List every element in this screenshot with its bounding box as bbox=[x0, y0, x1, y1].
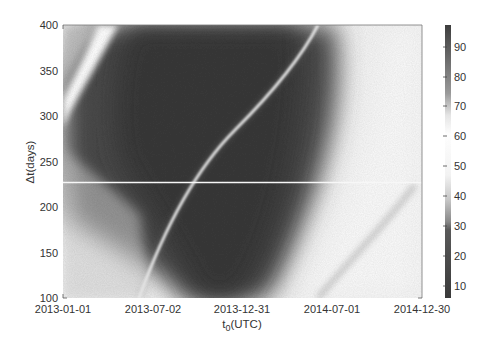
colorbar-tick-label: 60 bbox=[454, 130, 466, 142]
x-axis-label: t0(UTC) bbox=[222, 318, 262, 333]
x-tick-label: 2013-07-02 bbox=[125, 303, 181, 315]
y-tick-label: 300 bbox=[40, 110, 58, 122]
y-axis-label: Δt(days) bbox=[24, 140, 36, 183]
y-axis: 400 350 300 250 200 150 100 Δt(days) bbox=[24, 19, 58, 304]
colorbar-tick-label: 80 bbox=[454, 71, 466, 83]
x-tick-label: 2014-07-01 bbox=[304, 303, 360, 315]
y-tick-label: 150 bbox=[40, 247, 58, 259]
y-tick-label: 200 bbox=[40, 201, 58, 213]
x-tick-label: 2013-01-01 bbox=[35, 303, 91, 315]
heatmap-chart: 400 350 300 250 200 150 100 Δt(days) 201… bbox=[0, 0, 497, 349]
colorbar-tick-label: 70 bbox=[454, 100, 466, 112]
colorbar-tick-label: 50 bbox=[454, 160, 466, 172]
y-tick-label: 250 bbox=[40, 156, 58, 168]
y-tick-label: 400 bbox=[40, 19, 58, 31]
x-axis: 2013-01-01 2013-07-02 2013-12-31 2014-07… bbox=[35, 303, 450, 333]
colorbar: 90 80 70 60 50 40 30 20 10 bbox=[443, 25, 466, 298]
y-tick-label: 350 bbox=[40, 65, 58, 77]
x-tick-label: 2014-12-30 bbox=[394, 303, 450, 315]
colorbar-tick-label: 10 bbox=[454, 280, 466, 292]
colorbar-tick-label: 90 bbox=[454, 41, 466, 53]
plot-area bbox=[63, 25, 422, 300]
x-tick-label: 2013-12-31 bbox=[214, 303, 270, 315]
colorbar-tick-label: 40 bbox=[454, 190, 466, 202]
colorbar-tick-label: 20 bbox=[454, 250, 466, 262]
colorbar-tick-label: 30 bbox=[454, 220, 466, 232]
